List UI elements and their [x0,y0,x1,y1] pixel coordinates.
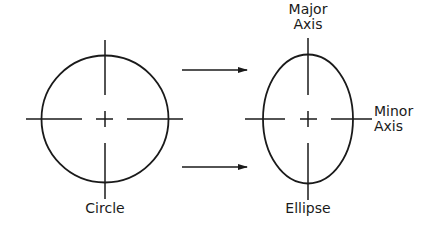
circle-label: Circle [75,201,135,216]
circle-centerlines [26,40,183,199]
diagram-canvas [0,0,432,229]
ellipse-label: Ellipse [273,201,343,216]
major-axis-label: Major Axis [278,2,338,32]
minor-axis-label: Minor Axis [374,104,432,134]
ellipse-centerlines [245,38,372,200]
